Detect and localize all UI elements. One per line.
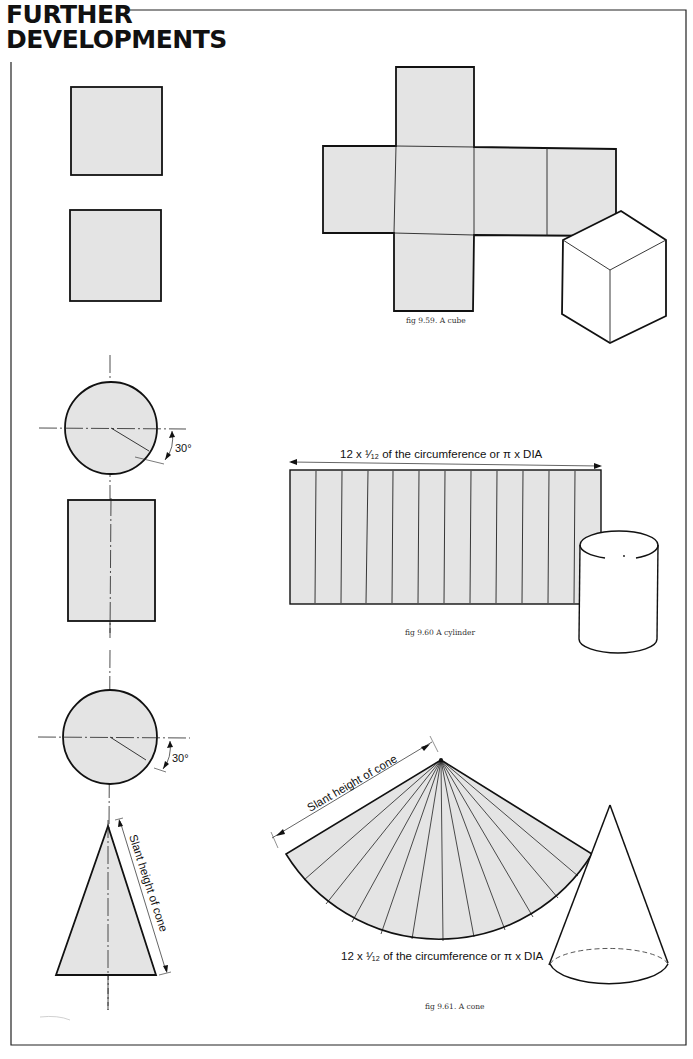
cylinder-front-view [68,498,155,636]
cylinder-net [290,470,601,604]
cylinder-dimension-label: 12 x ¹⁄₁₂ of the circumference or π x DI… [340,448,543,460]
cube-front-view [71,87,162,175]
technical-drawing-sheet: fig 9.59. A cube 30° 12 x ¹⁄₁₂ of the ci… [0,0,693,1059]
cone-net [286,758,592,941]
cone-caption: fig 9.61. A cone [425,1002,485,1011]
cone-isometric [549,805,669,990]
pencil-mark [40,1016,70,1020]
cylinder-caption: fig 9.60 A cylinder [405,628,475,637]
cube-caption: fig 9.59. A cube [406,316,466,325]
cylinder-isometric [579,531,658,653]
cone-arc-label: 12 x ¹⁄₁₂ of the circumference or π x DI… [341,950,544,962]
cylinder-angle-label: 30° [175,442,192,454]
cube-plan-view [70,210,161,301]
cylinder-dimension-arrow [289,459,602,469]
cone-angle-label: 30° [172,752,189,764]
